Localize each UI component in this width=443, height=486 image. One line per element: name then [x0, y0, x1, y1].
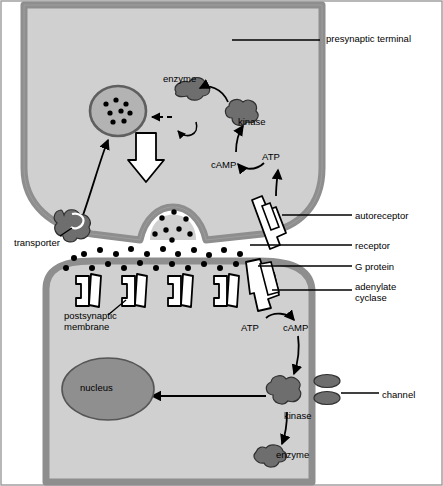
- label-atp-top: ATP: [262, 152, 280, 163]
- label-enzyme-bottom: enzyme: [276, 450, 309, 461]
- storage-vesicle: [90, 86, 146, 136]
- label-presynaptic-terminal: presynaptic terminal: [326, 34, 411, 45]
- label-g-protein: G protein: [355, 262, 394, 273]
- label-camp-bottom: cAMP: [283, 323, 308, 334]
- label-adenylate-cyclase: adenylate cyclase: [355, 282, 396, 303]
- label-channel: channel: [382, 390, 415, 401]
- label-nucleus: nucleus: [80, 383, 113, 394]
- diagram-root: presynaptic terminal enzyme kinase cAMP …: [0, 0, 443, 486]
- label-camp-top: cAMP: [211, 160, 236, 171]
- label-postsynaptic-membrane: postsynaptic membrane: [64, 311, 117, 332]
- label-receptor: receptor: [355, 241, 390, 252]
- label-transporter: transporter: [14, 238, 60, 249]
- label-autoreceptor: autoreceptor: [355, 211, 408, 222]
- label-kinase-top: kinase: [238, 117, 265, 128]
- label-kinase-bottom: kinase: [284, 411, 311, 422]
- label-atp-bottom: ATP: [241, 323, 259, 334]
- label-enzyme-top: enzyme: [163, 74, 196, 85]
